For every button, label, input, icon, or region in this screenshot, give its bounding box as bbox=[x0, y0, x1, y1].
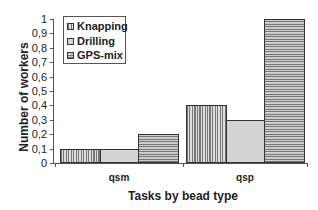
knapping-swatch-icon bbox=[67, 23, 74, 30]
y-tick bbox=[50, 120, 54, 121]
x-axis-label: Tasks by bead type bbox=[128, 189, 238, 203]
y-tick-label: 0,1 bbox=[27, 143, 47, 155]
x-tick bbox=[55, 163, 56, 167]
bar-qsm-drilling bbox=[100, 149, 139, 163]
x-tick bbox=[307, 163, 308, 167]
x-tick bbox=[183, 163, 184, 167]
y-tick-label: 0,2 bbox=[27, 128, 47, 140]
y-tick-label: 0,8 bbox=[27, 42, 47, 54]
legend-item-gps-mix: GPS-mix bbox=[67, 49, 123, 61]
legend-item-drilling: Drilling bbox=[67, 35, 115, 47]
y-tick bbox=[50, 48, 54, 49]
y-tick-label: 0,4 bbox=[27, 99, 47, 111]
bar-qsp-gps-mix bbox=[264, 19, 305, 163]
y-tick-label: 1 bbox=[27, 13, 47, 25]
y-tick bbox=[50, 33, 54, 34]
bar-qsp-drilling bbox=[226, 120, 265, 163]
drilling-swatch-icon bbox=[67, 38, 74, 45]
y-tick bbox=[50, 77, 54, 78]
bar-qsp-knapping bbox=[186, 105, 227, 163]
category-label-qsm: qsm bbox=[109, 172, 130, 183]
y-tick-label: 0 bbox=[27, 157, 47, 169]
y-tick bbox=[50, 163, 54, 164]
legend-label: GPS-mix bbox=[77, 49, 123, 61]
y-tick bbox=[50, 149, 54, 150]
y-tick-label: 0,9 bbox=[27, 27, 47, 39]
y-tick bbox=[50, 91, 54, 92]
y-tick-label: 0,7 bbox=[27, 56, 47, 68]
y-tick bbox=[50, 105, 54, 106]
y-tick-label: 0,3 bbox=[27, 114, 47, 126]
legend: Knapping Drilling GPS-mix bbox=[63, 16, 126, 64]
bar-qsm-gps-mix bbox=[138, 134, 179, 163]
y-tick-label: 0,6 bbox=[27, 71, 47, 83]
legend-label: Drilling bbox=[77, 35, 115, 47]
bar-qsm-knapping bbox=[60, 149, 101, 163]
x-axis bbox=[53, 163, 308, 164]
y-tick bbox=[50, 19, 54, 20]
y-tick bbox=[50, 134, 54, 135]
category-label-qsp: qsp bbox=[236, 172, 254, 183]
y-tick-label: 0,5 bbox=[27, 85, 47, 97]
legend-label: Knapping bbox=[77, 20, 128, 32]
legend-item-knapping: Knapping bbox=[67, 20, 128, 32]
gps-mix-swatch-icon bbox=[67, 52, 74, 59]
y-tick bbox=[50, 62, 54, 63]
